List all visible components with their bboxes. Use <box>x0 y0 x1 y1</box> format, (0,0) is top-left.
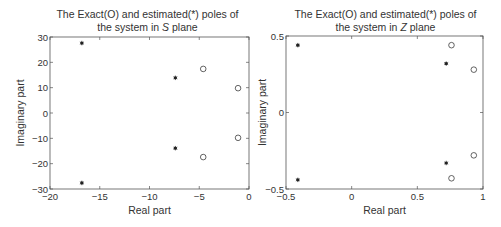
y-tick-label: 0.5 <box>271 31 284 42</box>
estimated-pole-marker <box>296 178 300 183</box>
estimated-pole-marker <box>444 161 448 166</box>
exact-pole-marker <box>471 153 477 159</box>
exact-pole-marker <box>449 42 455 48</box>
x-axis-label: Real part <box>363 204 406 216</box>
y-tick-label: 0 <box>279 107 284 118</box>
plot-frame <box>286 36 483 189</box>
x-tick-label: 0 <box>349 191 354 202</box>
x-tick-label: 1 <box>480 191 485 202</box>
z-plane-plot: −0.500.51−0.500.5Real partImaginary part <box>0 0 501 227</box>
y-axis-label: Imaginary part <box>256 79 268 146</box>
x-tick-label: 0.5 <box>411 191 424 202</box>
z-plane-chart: The Exact(O) and estimated(*) poles of t… <box>0 0 501 227</box>
exact-pole-marker <box>449 175 455 181</box>
estimated-pole-marker <box>444 61 448 66</box>
y-tick-label: −0.5 <box>265 184 284 195</box>
estimated-pole-marker <box>296 43 300 48</box>
exact-pole-marker <box>471 67 477 73</box>
